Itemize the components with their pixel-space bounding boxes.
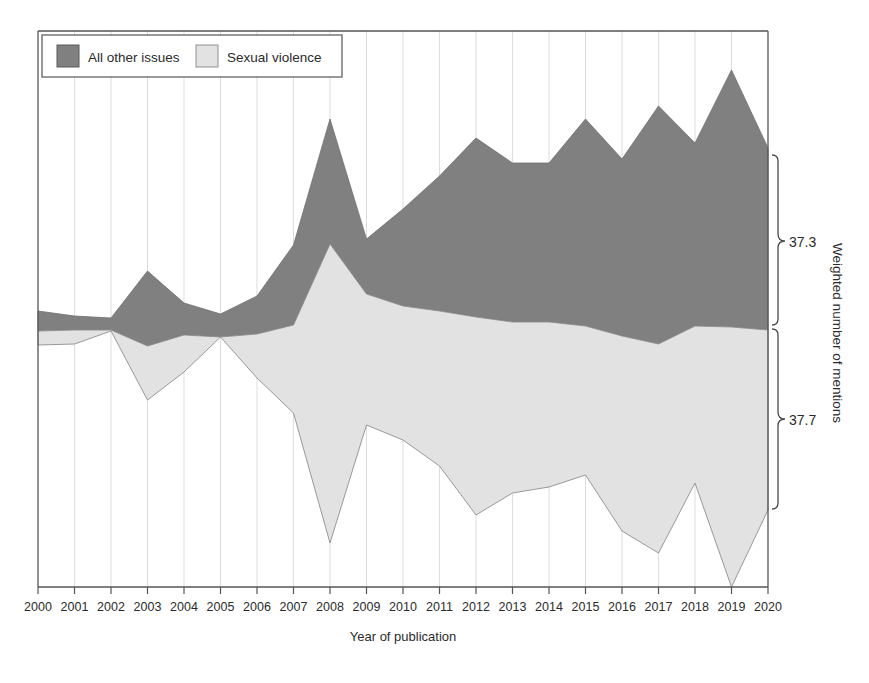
x-axis-tick-label: 2009 [353, 600, 381, 614]
x-axis-tick-label: 2008 [316, 600, 344, 614]
area-chart: 2000200120022003200420052006200720082009… [0, 0, 869, 683]
x-axis-tick-label: 2014 [535, 600, 563, 614]
legend-label-sexual-violence: Sexual violence [227, 50, 322, 65]
x-axis-tick-label: 2016 [608, 600, 636, 614]
x-axis-tick-label: 2011 [426, 600, 453, 614]
x-axis-tick-label: 2015 [572, 600, 600, 614]
x-axis-tick-label: 2019 [718, 600, 746, 614]
y-axis-title: Weighted number of mentions [830, 243, 845, 423]
lower-brace-label: 37.7 [789, 412, 816, 428]
x-axis-tick-label: 2002 [97, 600, 125, 614]
legend-swatch-all-other-issues [57, 45, 79, 67]
x-axis-tick-label: 2004 [170, 600, 198, 614]
x-axis-tick-label: 2000 [24, 600, 52, 614]
x-axis-tick-label: 2005 [207, 600, 235, 614]
legend: All other issues Sexual violence [42, 35, 342, 77]
x-axis-tick-labels: 2000200120022003200420052006200720082009… [24, 600, 782, 614]
x-axis-title: Year of publication [350, 629, 457, 644]
x-axis-tick-label: 2013 [499, 600, 527, 614]
x-axis-ticks [38, 587, 768, 594]
x-axis-tick-label: 2012 [462, 600, 490, 614]
x-axis-tick-label: 2006 [243, 600, 271, 614]
legend-label-all-other-issues: All other issues [88, 50, 180, 65]
x-axis-tick-label: 2020 [754, 600, 782, 614]
chart-figure: 2000200120022003200420052006200720082009… [0, 0, 869, 683]
upper-brace-label: 37.3 [789, 234, 816, 250]
x-axis-tick-label: 2001 [61, 600, 89, 614]
x-axis-tick-label: 2018 [681, 600, 709, 614]
x-axis-tick-label: 2010 [389, 600, 417, 614]
x-axis-tick-label: 2007 [280, 600, 308, 614]
legend-swatch-sexual-violence [196, 45, 218, 67]
x-axis-tick-label: 2003 [134, 600, 162, 614]
x-axis-tick-label: 2017 [645, 600, 673, 614]
